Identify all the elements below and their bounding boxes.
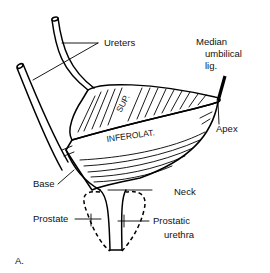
- panel-label: A.: [15, 255, 24, 266]
- ureters-label: Ureters: [104, 37, 135, 48]
- apex-label: Apex: [216, 123, 238, 134]
- ureter-anterior: [16, 63, 68, 170]
- median-umbilical-label-2: umbilical: [205, 48, 242, 59]
- sup-label: SUP.: [114, 93, 132, 114]
- urethra: [100, 190, 126, 250]
- ureter-posterior: [51, 16, 94, 90]
- neck-label: Neck: [174, 186, 196, 197]
- inferolat-label: INFEROLAT.: [106, 127, 155, 144]
- base-label: Base: [33, 178, 55, 189]
- bladder-diagram: SUP. INFEROLAT. Ureters Media: [0, 0, 270, 273]
- median-umbilical-label-3: lig.: [205, 60, 217, 71]
- median-umbilical-label-1: Median: [196, 36, 227, 47]
- median-umbilical-ligament: [218, 76, 225, 101]
- base-outline: [66, 150, 100, 190]
- prostate-label: Prostate: [33, 213, 68, 224]
- prostatic-urethra-label-2: urethra: [164, 229, 195, 240]
- prostatic-urethra-label-1: Prostatic: [153, 215, 190, 226]
- inferolateral-surface: [62, 102, 218, 190]
